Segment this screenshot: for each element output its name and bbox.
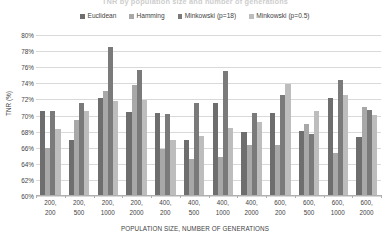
x-tick-label-line2: 2000 [237, 208, 266, 218]
y-tick-label: 76% [21, 64, 34, 71]
x-tick-label-line1: 200, [65, 198, 94, 208]
bar-group [237, 35, 266, 196]
x-tick-label-line2: 2000 [352, 208, 381, 218]
x-tick-label: 600,2000 [352, 198, 381, 217]
x-tick-label-line2: 200 [151, 208, 180, 218]
y-tick-label: 62% [21, 176, 34, 183]
legend-item-1[interactable]: Hamming [129, 13, 164, 20]
x-tick-label-line2: 1000 [324, 208, 353, 218]
y-axis-title: TNR (%) [5, 82, 12, 126]
x-tick-label-line2: 200 [266, 208, 295, 218]
x-tick-label-line2: 500 [180, 208, 209, 218]
x-tick-label-line1: 200, [122, 198, 151, 208]
x-tick-label-line1: 600, [324, 198, 353, 208]
x-tick-label: 200,200 [36, 198, 65, 217]
bar-series-3[interactable] [314, 111, 319, 196]
x-tick-label-line1: 600, [266, 198, 295, 208]
bar-group [65, 35, 94, 196]
x-tick-label: 600,1000 [324, 198, 353, 217]
x-tick-label: 600,500 [295, 198, 324, 217]
legend-item-2[interactable]: Minkowski (p=18) [178, 13, 237, 20]
bar-series-3[interactable] [84, 111, 89, 196]
y-tick-label: 80% [21, 32, 34, 39]
x-tick-label: 400,500 [180, 198, 209, 217]
x-tick-label-line2: 500 [295, 208, 324, 218]
bar-series-3[interactable] [142, 100, 147, 196]
y-tick-label: 72% [21, 96, 34, 103]
legend-label: Hamming [136, 13, 164, 20]
bar-group [180, 35, 209, 196]
x-tick-label: 200,2000 [122, 198, 151, 217]
bar-series-3[interactable] [113, 101, 118, 196]
x-tick-label-line1: 400, [209, 198, 238, 208]
bar-series-3[interactable] [199, 136, 204, 196]
y-tick-label: 70% [21, 112, 34, 119]
tnr-bar-chart: TNR by population size and number of gen… [0, 0, 390, 245]
x-tick-label-line2: 1000 [209, 208, 238, 218]
bar-series-3[interactable] [372, 115, 377, 196]
bar-group [295, 35, 324, 196]
plot-area [36, 35, 381, 196]
bar-group [266, 35, 295, 196]
x-tick-label-line1: 200, [94, 198, 123, 208]
x-tick-label-line1: 600, [352, 198, 381, 208]
chart-title: TNR by population size and number of gen… [0, 0, 390, 6]
legend-item-3[interactable]: Minkowski (p=0.5) [249, 13, 309, 20]
y-tick-label: 78% [21, 48, 34, 55]
bar-group [209, 35, 238, 196]
x-tick-label-line2: 1000 [94, 208, 123, 218]
x-tick-label: 200,500 [65, 198, 94, 217]
bar-group [324, 35, 353, 196]
bar-series-3[interactable] [170, 140, 175, 196]
bar-group [122, 35, 151, 196]
bar-series-3[interactable] [55, 129, 60, 196]
legend-swatch-icon [129, 14, 134, 19]
y-tick-label: 64% [21, 160, 34, 167]
x-tick-label: 400,200 [151, 198, 180, 217]
legend-swatch-icon [80, 14, 85, 19]
x-tick-label-line2: 200 [36, 208, 65, 218]
bar-group [151, 35, 180, 196]
x-tick-label-line2: 2000 [122, 208, 151, 218]
x-tick-label-line1: 600, [295, 198, 324, 208]
y-tick-label: 66% [21, 144, 34, 151]
chart-legend: EuclideanHammingMinkowski (p=18)Minkowsk… [0, 13, 390, 20]
x-tick-label: 200,1000 [94, 198, 123, 217]
bar-group [36, 35, 65, 196]
legend-swatch-icon [249, 14, 254, 19]
x-tick-label-line1: 400, [237, 198, 266, 208]
x-tick-label-line1: 200, [36, 198, 65, 208]
y-tick-label: 68% [21, 128, 34, 135]
bar-series-3[interactable] [343, 95, 348, 196]
x-axis-title: POPULATION SIZE, NUMBER OF GENERATIONS [0, 225, 390, 232]
x-tick-label-line2: 500 [65, 208, 94, 218]
y-tick-label: 74% [21, 80, 34, 87]
y-axis-tick-labels: 80%78%76%74%72%70%68%66%64%62%60% [14, 35, 34, 196]
bar-group [352, 35, 381, 196]
y-tick-label: 60% [21, 193, 34, 200]
x-tick-label-line1: 400, [180, 198, 209, 208]
x-tick [381, 195, 382, 198]
legend-label: Minkowski (p=18) [185, 13, 237, 20]
bar-group [94, 35, 123, 196]
bar-series-3[interactable] [285, 84, 290, 196]
x-tick-label-line1: 400, [151, 198, 180, 208]
legend-item-0[interactable]: Euclidean [80, 13, 116, 20]
x-tick-label: 400,1000 [209, 198, 238, 217]
legend-swatch-icon [178, 14, 183, 19]
x-tick-label: 600,200 [266, 198, 295, 217]
legend-label: Euclidean [87, 13, 116, 20]
x-tick-label: 400,2000 [237, 198, 266, 217]
x-axis-tick-labels: 200,200200,500200,1000200,2000400,200400… [36, 198, 381, 222]
bar-series-3[interactable] [257, 122, 262, 196]
legend-label: Minkowski (p=0.5) [256, 13, 309, 20]
bar-series-3[interactable] [228, 128, 233, 196]
